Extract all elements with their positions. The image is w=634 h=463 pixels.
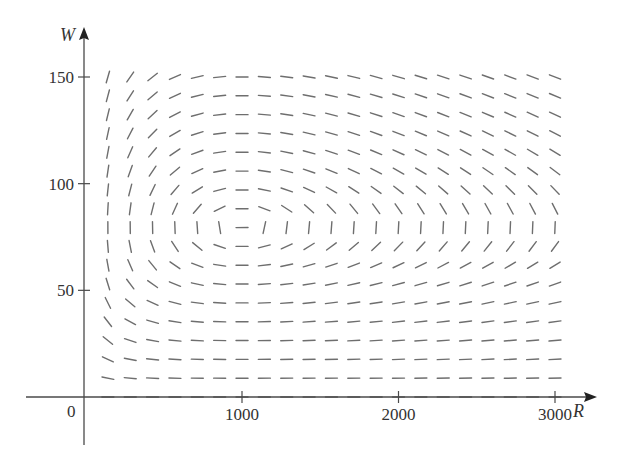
slope-segment <box>170 93 181 98</box>
slope-segment <box>350 204 358 213</box>
slope-segment <box>348 340 360 341</box>
slope-segment <box>549 321 561 323</box>
slope-segment <box>172 203 177 214</box>
slope-segment <box>530 203 536 214</box>
slope-segment <box>170 167 179 175</box>
slope-segment <box>488 222 489 234</box>
slope-segment <box>281 321 293 322</box>
slope-segment <box>281 114 293 116</box>
slope-segment <box>281 283 293 284</box>
slope-segment <box>281 76 293 78</box>
slope-segment <box>460 94 471 98</box>
slope-segment <box>104 317 111 326</box>
slope-segment <box>348 321 360 322</box>
slope-segment <box>438 262 449 268</box>
slope-segment <box>106 109 109 121</box>
slope-segment <box>421 222 422 234</box>
slope-segment <box>258 265 270 266</box>
slope-segment <box>214 303 226 304</box>
slope-segment <box>460 359 472 360</box>
slope-segment <box>482 321 494 323</box>
slope-segment <box>103 337 112 345</box>
slope-segment <box>102 377 114 379</box>
slope-segment <box>460 340 472 341</box>
origin-label: 0 <box>67 402 76 421</box>
slope-segment <box>303 113 315 115</box>
slope-segment <box>438 112 449 116</box>
slope-segment <box>348 113 360 116</box>
slope-segment <box>527 131 538 136</box>
slope-segment <box>151 203 154 215</box>
slope-segment <box>415 94 426 98</box>
slope-segment <box>551 242 558 252</box>
slope-segment <box>370 94 382 97</box>
slope-segment <box>550 112 561 117</box>
slope-segment <box>214 76 226 77</box>
slope-segment <box>532 222 533 234</box>
slope-segment <box>460 131 471 136</box>
slope-segment <box>393 150 404 155</box>
slope-segment <box>348 263 359 267</box>
slope-segment <box>124 378 136 379</box>
slope-segment <box>393 302 405 304</box>
slope-segment <box>416 168 426 174</box>
slope-segment <box>510 222 511 234</box>
slope-segment <box>303 264 315 267</box>
slope-segment <box>214 170 226 172</box>
slope-segment <box>551 186 559 195</box>
slope-segment <box>438 150 449 155</box>
slope-segment <box>106 278 110 289</box>
slope-segment <box>127 109 133 119</box>
slope-segment <box>372 242 381 250</box>
slope-segment <box>126 299 135 307</box>
slope-segment <box>258 95 270 96</box>
slope-segment <box>281 302 293 303</box>
slope-segment <box>169 75 180 80</box>
slope-segment <box>125 339 136 343</box>
slope-segment <box>415 321 427 322</box>
slope-segment <box>416 186 425 194</box>
slope-segment <box>437 321 449 322</box>
slope-segment <box>214 264 226 266</box>
slope-segment <box>281 132 293 134</box>
slope-segment <box>349 187 359 194</box>
slope-segment <box>529 242 536 252</box>
slope-segment <box>304 187 315 192</box>
slope-segment <box>303 132 315 135</box>
slope-segment <box>349 243 358 251</box>
x-axis-label: R <box>572 401 584 421</box>
slope-segment <box>527 282 538 286</box>
slope-segment <box>282 206 292 213</box>
slope-segment <box>214 188 226 191</box>
slope-segment <box>148 92 157 100</box>
slope-segment <box>549 94 560 99</box>
slope-segment <box>527 94 538 99</box>
slope-segment <box>393 283 405 286</box>
slope-segment <box>303 321 315 322</box>
slope-segment <box>107 240 108 252</box>
slope-segment <box>393 168 403 174</box>
slope-segment <box>326 132 338 135</box>
slope-segment <box>326 187 336 193</box>
slope-segment <box>127 72 134 82</box>
slope-segment <box>191 94 203 97</box>
slope-segment <box>506 186 515 194</box>
slope-segment <box>214 114 226 115</box>
slope-segment <box>169 321 181 323</box>
slope-segment <box>326 150 337 154</box>
slope-segment <box>415 282 427 285</box>
slope-segment <box>193 243 202 251</box>
slope-segment <box>214 133 226 135</box>
slope-segment <box>169 340 181 341</box>
slope-segment <box>440 204 446 214</box>
slope-segment <box>147 359 159 360</box>
direction-field-plot: 10002000300050100150 W R 0 <box>0 0 634 463</box>
slope-segment <box>348 283 360 286</box>
slope-segment <box>303 95 315 97</box>
slope-segment <box>504 359 516 360</box>
slope-segment <box>128 260 133 271</box>
slope-segment <box>102 357 113 362</box>
slope-segment <box>439 186 448 194</box>
slope-segment <box>258 284 270 285</box>
slope-segment <box>108 203 109 215</box>
